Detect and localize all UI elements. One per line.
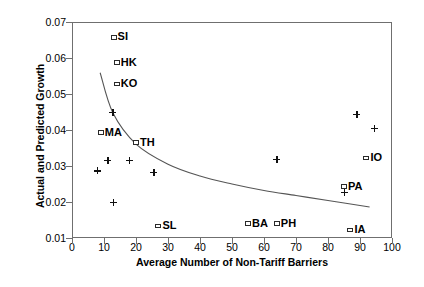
data-point-label-PH: PH <box>281 218 296 229</box>
y-tick-label-0.02: 0.02 <box>20 197 66 207</box>
data-point-plus <box>371 125 378 132</box>
data-point-square-SI <box>111 35 117 40</box>
data-point-plus <box>104 157 111 164</box>
data-point-label-BA: BA <box>252 218 268 229</box>
data-point-plus <box>150 169 157 176</box>
data-point-plus <box>273 156 280 163</box>
data-point-plus <box>341 189 348 196</box>
data-point-square-SL <box>155 224 161 229</box>
data-point-label-MA: MA <box>105 127 122 138</box>
x-tick-mark <box>264 238 265 244</box>
data-point-square-PH <box>274 221 280 226</box>
y-tick-label-0.07: 0.07 <box>20 17 66 27</box>
x-tick-mark <box>136 238 137 244</box>
data-point-label-KO: KO <box>121 78 138 89</box>
x-tick-mark <box>200 238 201 244</box>
data-point-square-IO <box>363 156 369 161</box>
y-tick-label-0.03: 0.03 <box>20 161 66 171</box>
data-point-plus <box>126 157 133 164</box>
data-point-label-SI: SI <box>118 31 128 42</box>
data-point-square-HK <box>114 60 120 65</box>
x-tick-mark <box>360 238 361 244</box>
data-point-square-BA <box>245 221 251 226</box>
data-point-square-MA <box>98 130 104 135</box>
x-tick-mark <box>328 238 329 244</box>
data-point-plus <box>94 167 101 174</box>
x-tick-mark <box>296 238 297 244</box>
x-tick-mark <box>72 238 73 244</box>
data-point-label-TH: TH <box>140 137 155 148</box>
data-point-square-PA <box>341 184 347 189</box>
y-tick-label-0.05: 0.05 <box>20 89 66 99</box>
data-point-label-HK: HK <box>121 57 137 68</box>
data-point-square-TH <box>133 140 139 145</box>
y-tick-label-0.04: 0.04 <box>20 125 66 135</box>
data-point-square-KO <box>114 82 120 87</box>
x-axis-title: Average Number of Non-Tariff Barriers <box>72 256 392 268</box>
data-point-plus <box>353 111 360 118</box>
data-point-label-PA: PA <box>348 181 362 192</box>
data-point-plus <box>110 199 117 206</box>
data-point-label-SL: SL <box>162 220 176 231</box>
data-point-plus <box>109 109 116 116</box>
data-point-square-IA <box>347 228 353 233</box>
x-tick-mark <box>392 238 393 244</box>
x-tick-mark <box>232 238 233 244</box>
x-tick-mark <box>168 238 169 244</box>
scatter-plot-figure: Actual and Predicted Growth Average Numb… <box>0 0 424 287</box>
y-tick-label-0.06: 0.06 <box>20 53 66 63</box>
x-tick-mark <box>104 238 105 244</box>
data-point-label-IO: IO <box>370 152 382 163</box>
data-point-label-IA: IA <box>354 224 365 235</box>
